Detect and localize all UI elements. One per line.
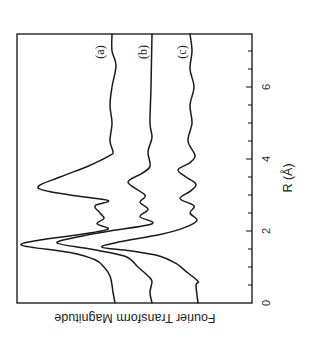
series-curve-b [57,34,153,303]
series-curve-c [102,34,199,303]
series-label-a: (a) [93,45,107,58]
series-curve-a [21,34,116,303]
r-axis-ticks [246,51,252,285]
r-tick-label: 2 [260,228,272,234]
r-axis-tick-labels: 0246 [260,84,272,306]
series-label-b: (b) [136,45,150,59]
ft-magnitude-chart: 0246 R (Å) Fourier Transform Magnitude (… [0,0,315,340]
r-tick-label: 4 [260,156,272,162]
r-axis-label: R (Å) [280,163,295,192]
series-label-c: (c) [175,45,189,58]
r-tick-label: 0 [260,300,272,306]
magnitude-axis-label: Fourier Transform Magnitude [54,311,215,325]
plot-curves [21,34,199,303]
r-tick-label: 6 [260,84,272,90]
